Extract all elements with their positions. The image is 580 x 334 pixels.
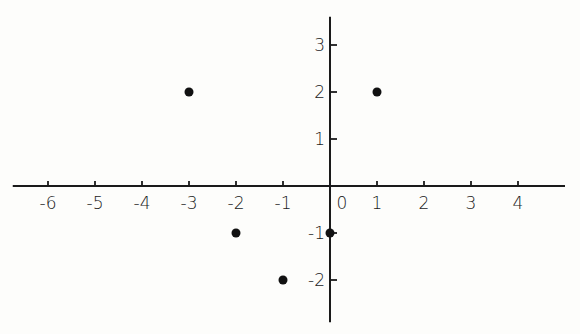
data-point bbox=[279, 276, 288, 285]
x-tick-label: -4 bbox=[134, 193, 151, 213]
y-tick-label: -2 bbox=[308, 270, 325, 290]
origin-label: 0 bbox=[337, 193, 348, 213]
x-tick-label: -3 bbox=[181, 193, 198, 213]
y-tick-label: 3 bbox=[314, 35, 325, 55]
x-tick-label: -5 bbox=[87, 193, 104, 213]
scatter-plot: -6-5-4-3-2-112340321-1-2 bbox=[0, 0, 580, 334]
x-tick-label: -6 bbox=[40, 193, 57, 213]
x-tick-label: -2 bbox=[228, 193, 245, 213]
x-tick-label: -1 bbox=[275, 193, 292, 213]
x-tick-label: 2 bbox=[419, 193, 430, 213]
data-point bbox=[185, 88, 194, 97]
data-point bbox=[232, 229, 241, 238]
y-tick-label: 2 bbox=[314, 82, 325, 102]
x-tick-label: 4 bbox=[513, 193, 524, 213]
data-point bbox=[326, 229, 335, 238]
x-tick-label: 3 bbox=[466, 193, 477, 213]
x-tick-label: 1 bbox=[372, 193, 383, 213]
data-point bbox=[373, 88, 382, 97]
y-tick-label: -1 bbox=[308, 223, 325, 243]
y-tick-label: 1 bbox=[314, 129, 325, 149]
